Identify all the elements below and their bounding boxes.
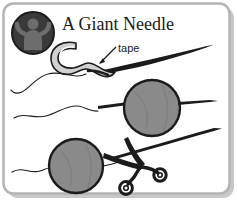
page-title: A Giant Needle	[62, 14, 174, 34]
badge-figure-head	[28, 19, 39, 30]
person-figure-badge	[12, 12, 54, 54]
needle-sphere-upper	[124, 80, 180, 136]
giant-needle-illustration: A Giant Needle tape	[0, 0, 237, 201]
needle-sphere-lower	[49, 139, 103, 193]
illustration-card: A Giant Needle tape	[0, 0, 237, 201]
tape-label: tape	[118, 42, 139, 54]
